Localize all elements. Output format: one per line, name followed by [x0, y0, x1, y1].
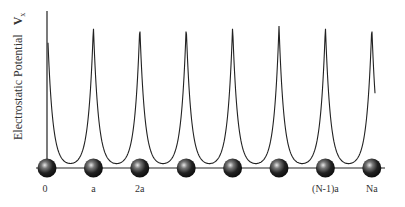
- ion-5: [270, 159, 289, 178]
- potential-curve: [48, 26, 375, 164]
- ion-4: [223, 159, 242, 178]
- ion-0: [38, 159, 57, 178]
- ion-3: [177, 159, 196, 178]
- ion-7: [362, 159, 381, 178]
- ion-6: [316, 159, 335, 178]
- x-tick-label: (N-1)a: [312, 183, 339, 195]
- potential-diagram: 0a2a(N-1)aNa: [0, 0, 405, 207]
- x-tick-label: 0: [43, 183, 48, 194]
- x-tick-label: a: [91, 183, 96, 194]
- ion-2: [130, 159, 149, 178]
- x-tick-label: Na: [366, 183, 378, 194]
- ion-1: [84, 159, 103, 178]
- x-tick-label: 2a: [135, 183, 145, 194]
